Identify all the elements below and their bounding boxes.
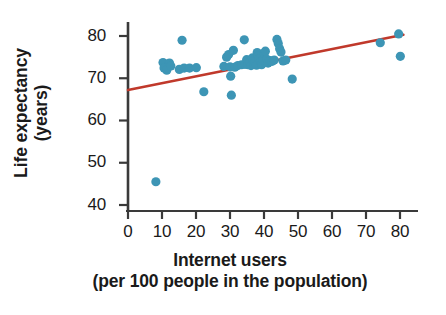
data-point: [276, 47, 285, 56]
data-point: [376, 38, 385, 47]
data-point: [229, 46, 238, 55]
data-point: [166, 61, 175, 70]
data-points-group: [151, 29, 405, 186]
plot-area: [0, 0, 446, 315]
data-point: [261, 47, 270, 56]
data-point: [177, 36, 186, 45]
data-point: [396, 52, 405, 61]
data-point: [226, 72, 235, 81]
data-point: [192, 63, 201, 72]
axis-lines: [126, 22, 418, 211]
data-point: [394, 29, 403, 38]
data-point: [281, 55, 290, 64]
data-point: [288, 74, 297, 83]
data-point: [199, 87, 208, 96]
data-point: [227, 91, 236, 100]
data-point: [151, 177, 160, 186]
data-point: [270, 55, 279, 64]
scatter-plot-figure: Life expectancy (years) 80 70 60 50 40 0…: [0, 0, 446, 315]
data-point: [240, 35, 249, 44]
